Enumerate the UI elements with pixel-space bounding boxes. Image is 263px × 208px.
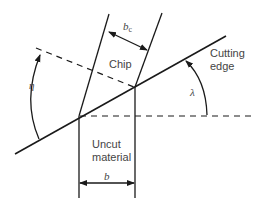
eta-label: η: [29, 79, 34, 91]
oblique-cutting-diagram: bc Chip Cutting edge Uncut material b η …: [0, 0, 263, 208]
uncut-label-line1: Uncut: [92, 138, 121, 150]
chip-width-arrow: [109, 32, 147, 50]
uncut-label-line2: material: [92, 151, 131, 163]
chip-width-subscript: c: [129, 25, 133, 34]
eta-angle-arc: [31, 55, 40, 139]
chip-left-boundary: [79, 14, 109, 116]
lambda-label: λ: [189, 86, 195, 98]
uncut-width-label: b: [104, 170, 110, 182]
cutting-edge-label-line2: edge: [210, 60, 234, 72]
cutting-edge-label-line1: Cutting: [210, 47, 245, 59]
chip-label: Chip: [109, 58, 132, 70]
chip-width-label: bc: [123, 20, 133, 34]
chip-right-boundary: [135, 13, 162, 87]
